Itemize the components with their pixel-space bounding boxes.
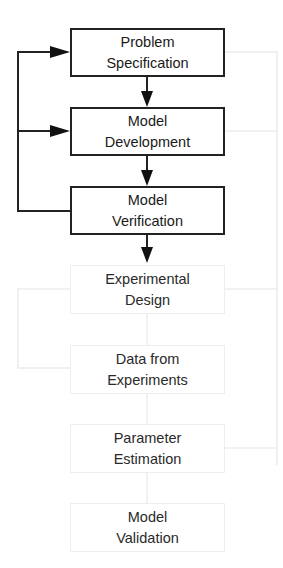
box-label-line2: Design [125,290,170,311]
box-label-line1: Data from [116,349,180,370]
box-label-line1: Model [128,111,168,132]
box-model-development: Model Development [70,107,225,156]
box-model-validation: Model Validation [70,503,225,552]
box-problem-specification: Problem Specification [70,28,225,77]
flowchart-canvas: Problem Specification Model Development … [0,0,283,568]
arrow-down-icon [141,247,153,263]
arrow-right-icon [50,46,70,58]
box-parameter-estimation: Parameter Estimation [70,424,225,473]
box-label-line1: Experimental [105,269,190,290]
arrow-down-icon [141,170,153,186]
box-label-line2: Experiments [107,370,188,391]
box-label-line1: Problem [121,32,175,53]
box-label-line1: Parameter [114,428,182,449]
box-label-line2: Validation [116,528,179,549]
box-label-line2: Specification [106,53,188,74]
box-data-from-experiments: Data from Experiments [70,345,225,394]
box-label-line1: Model [128,507,168,528]
box-label-line2: Verification [112,211,183,232]
arrow-right-icon [50,125,70,137]
box-label-line2: Estimation [114,449,182,470]
box-model-verification: Model Verification [70,186,225,235]
box-label-line1: Model [128,190,168,211]
box-label-line2: Development [105,132,190,153]
arrow-down-icon [141,91,153,107]
box-experimental-design: Experimental Design [70,265,225,314]
